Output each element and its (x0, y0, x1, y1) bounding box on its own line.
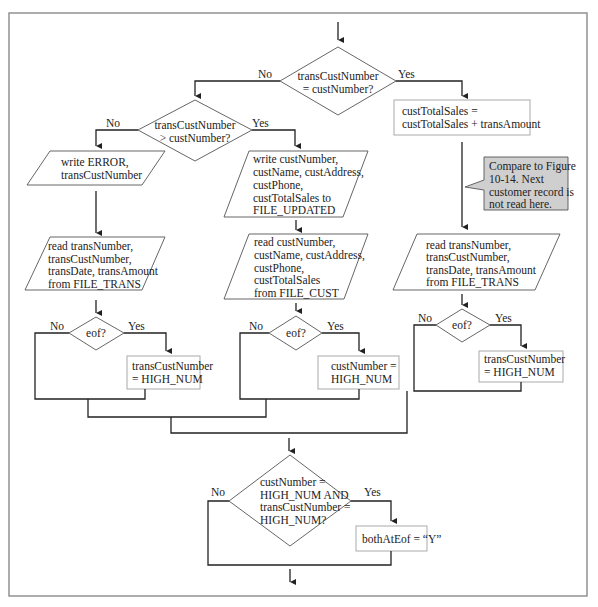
svg-text:custName, custAddress,: custName, custAddress, (253, 166, 364, 179)
yes-label: Yes (364, 486, 381, 498)
svg-text:eof?: eof? (452, 319, 472, 331)
svg-text:custName, custAddress,: custName, custAddress, (254, 249, 365, 262)
process-accumulate-sales: custTotalSales = custTotalSales + transA… (394, 100, 541, 135)
yes-label: Yes (128, 320, 145, 332)
io-read-transaction-left: read transNumber, transCustNumber, trans… (25, 237, 165, 290)
svg-text:custTotalSales =: custTotalSales = (402, 105, 478, 117)
io-write-customer: write custNumber, custName, custAddress,… (224, 151, 368, 217)
svg-text:read transNumber,: read transNumber, (48, 240, 133, 253)
process-left-high-num: transCustNumber = HIGH_NUM (127, 356, 213, 389)
svg-text:HIGH_NUM?: HIGH_NUM? (260, 514, 326, 526)
svg-text:custTotalSales: custTotalSales (254, 274, 321, 286)
svg-text:transDate, transAmount: transDate, transAmount (48, 265, 159, 278)
svg-text:custNumber =: custNumber = (260, 476, 326, 488)
svg-text:from FILE_TRANS: from FILE_TRANS (48, 278, 141, 290)
no-label: No (249, 320, 263, 332)
svg-text:eof?: eof? (86, 327, 106, 339)
svg-text:bothAtEof = “Y”: bothAtEof = “Y” (362, 533, 441, 545)
svg-text:custNumber =: custNumber = (331, 360, 397, 372)
svg-text:transCustNumber: transCustNumber (154, 119, 235, 131)
svg-text:transCustNumber: transCustNumber (61, 169, 142, 181)
yes-label: Yes (327, 320, 344, 332)
svg-text:eof?: eof? (286, 327, 306, 339)
no-label: No (106, 117, 120, 129)
no-label: No (418, 312, 432, 324)
svg-text:customer record is: customer record is (489, 186, 574, 198)
svg-text:HIGH_NUM: HIGH_NUM (331, 373, 392, 385)
svg-text:transCustNumber =: transCustNumber = (260, 501, 351, 513)
yes-label: Yes (252, 117, 269, 129)
svg-text:from FILE_CUST: from FILE_CUST (254, 287, 339, 299)
svg-text:custTotalSales + transAmount: custTotalSales + transAmount (402, 118, 541, 130)
io-write-error: write ERROR, transCustNumber (27, 151, 165, 185)
svg-text:not read here.: not read here. (489, 198, 552, 210)
svg-text:transCustNumber,: transCustNumber, (426, 251, 510, 264)
svg-text:custPhone,: custPhone, (253, 179, 303, 192)
svg-text:= HIGH_NUM: = HIGH_NUM (484, 366, 555, 378)
svg-text:read custNumber,: read custNumber, (254, 236, 335, 249)
yes-label: Yes (495, 312, 512, 324)
io-read-customer: read custNumber, custName, custAddress, … (224, 234, 368, 299)
yes-label: Yes (398, 68, 415, 80)
svg-text:Compare to Figure: Compare to Figure (489, 160, 576, 173)
svg-text:transCustNumber: transCustNumber (297, 70, 378, 82)
svg-text:transCustNumber: transCustNumber (484, 353, 565, 365)
process-right-high-num: transCustNumber = HIGH_NUM (479, 351, 565, 382)
svg-text:write ERROR,: write ERROR, (61, 156, 129, 169)
svg-text:> custNumber?: > custNumber? (160, 132, 231, 144)
svg-text:= HIGH_NUM: = HIGH_NUM (132, 373, 203, 385)
flowchart: transCustNumber = custNumber? No Yes cus… (0, 0, 598, 607)
no-label: No (258, 68, 272, 80)
svg-text:transCustNumber: transCustNumber (132, 360, 213, 372)
io-read-transaction-right: read transNumber, transCustNumber, trans… (393, 234, 560, 290)
svg-text:from FILE_TRANS: from FILE_TRANS (426, 276, 519, 288)
svg-text:FILE_UPDATED: FILE_UPDATED (253, 204, 335, 216)
svg-text:custTotalSales to: custTotalSales to (253, 192, 331, 204)
svg-text:10-14. Next: 10-14. Next (489, 173, 545, 185)
no-label: No (50, 320, 64, 332)
svg-text:write custNumber,: write custNumber, (253, 153, 338, 166)
svg-text:= custNumber?: = custNumber? (303, 83, 374, 95)
process-middle-high-num: custNumber = HIGH_NUM (318, 356, 399, 389)
no-label: No (211, 486, 225, 498)
svg-text:HIGH_NUM AND: HIGH_NUM AND (260, 489, 349, 501)
